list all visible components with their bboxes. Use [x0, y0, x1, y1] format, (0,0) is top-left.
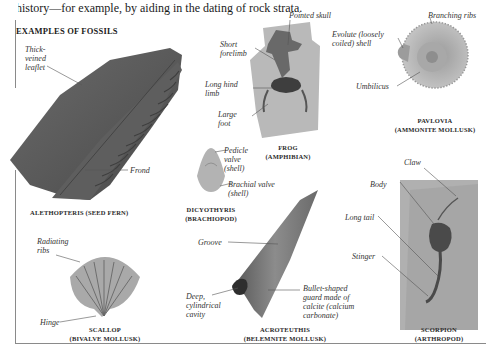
label-bullet-shaped-guard: Bullet-shaped guard made of calcite (cal…: [303, 284, 354, 320]
label-stinger: Stinger: [352, 252, 375, 261]
label-hinge: Hinge: [40, 318, 60, 327]
label-frond: Frond: [130, 166, 150, 175]
caption-acroteuthis: ACROTEUTHIS (BELEMNITE MOLLUSK): [240, 325, 330, 343]
caption-dicyothyris: DICYOTHYRIS (BRACHIOPOD): [181, 205, 241, 223]
caption-pavlovia: PAVLOVIA (AMMONITE MOLLUSK): [390, 116, 480, 134]
label-long-tail: Long tail: [345, 213, 374, 222]
label-radiating-ribs: Radiating ribs: [37, 237, 69, 255]
ammonite-fossil: [397, 18, 468, 88]
label-pointed-skull: Pointed skull: [289, 11, 331, 20]
scallop-fossil: [56, 255, 140, 322]
label-brachial-valve: Brachial valve (shell): [228, 180, 275, 198]
label-branching-ribs: Branching ribs: [428, 11, 476, 20]
caption-scorpion: SCORPION (ARTHROPOD): [404, 325, 474, 343]
frog-fossil: [250, 20, 320, 138]
label-evolute-shell: Evolute (loosely coiled) shell: [332, 30, 384, 48]
label-pedicle-valve: Pedicle valve (shell): [224, 146, 248, 173]
label-deep-cylindrical-cavity: Deep, cylindrical cavity: [186, 292, 221, 319]
label-body: Body: [370, 180, 386, 189]
label-short-forelimb: Short forelimb: [220, 40, 247, 58]
caption-alethopteris: ALETHOPTERIS (SEED FERN): [30, 208, 128, 217]
label-thick-veined-leaflet: Thick- veined leaflet: [25, 45, 46, 72]
caption-scallop: SCALLOP (BIVALVE MOLLUSK): [65, 325, 145, 343]
label-claw: Claw: [404, 158, 421, 167]
label-long-hind-limb: Long hind limb: [205, 80, 238, 98]
label-large-foot: Large foot: [218, 110, 237, 128]
scorpion-fossil: [378, 168, 478, 330]
caption-frog: FROG (AMPHIBIAN): [258, 143, 318, 161]
label-umbilicus: Umbilicus: [356, 82, 389, 91]
label-groove: Groove: [198, 238, 222, 247]
